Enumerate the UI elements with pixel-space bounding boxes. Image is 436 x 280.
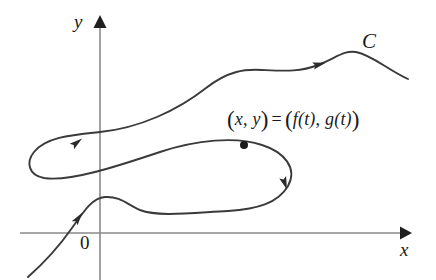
- g-close-paren: ): [346, 109, 352, 129]
- function-g-symbol: g: [325, 109, 334, 129]
- x-axis-arrowhead: [400, 227, 412, 240]
- lhs-x-symbol: x: [235, 109, 243, 129]
- rhs-close-paren: ): [352, 107, 360, 132]
- lhs-y-symbol: y: [252, 109, 260, 129]
- rhs-open-paren: (: [285, 107, 293, 132]
- equals-sign: =: [269, 109, 285, 129]
- direction-arrow-upper-right: [312, 59, 326, 69]
- curve-name-label: C: [362, 31, 376, 52]
- direction-arrow-outer-loop: [70, 136, 85, 150]
- parametric-curve-figure: y x 0 C (x, y)=(f(t), g(t)): [0, 0, 436, 280]
- x-axis-label: x: [400, 240, 408, 259]
- y-axis-arrowhead: [94, 15, 107, 28]
- y-axis-label: y: [74, 12, 82, 31]
- point-expression-label: (x, y)=(f(t), g(t)): [227, 106, 360, 129]
- lhs-open-paren: (: [227, 107, 235, 132]
- origin-label: 0: [80, 233, 90, 252]
- lhs-close-paren: ): [261, 107, 269, 132]
- marked-point-dot: [240, 141, 248, 149]
- rhs-comma: ,: [316, 109, 325, 129]
